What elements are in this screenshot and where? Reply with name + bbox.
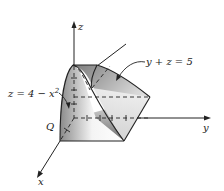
solid-region-diagram: z y x Q y + z = 5 z = 4 − x2 (0, 0, 224, 191)
x-axis-label: x (38, 176, 44, 187)
plane-trace-line (97, 44, 126, 66)
y-arrow-icon (204, 116, 211, 121)
y-axis (137, 116, 211, 121)
solid-Q (60, 65, 150, 141)
plane-equation-label: y + z = 5 (145, 56, 193, 67)
y-axis-label: y (202, 122, 209, 133)
region-label: Q (46, 121, 54, 132)
z-axis-label: z (77, 21, 84, 32)
x-axis (37, 141, 60, 178)
z-arrow-icon (72, 21, 77, 28)
cylinder-equation-label: z = 4 − x2 (7, 87, 60, 99)
plane-pointer-arrow (118, 62, 145, 78)
